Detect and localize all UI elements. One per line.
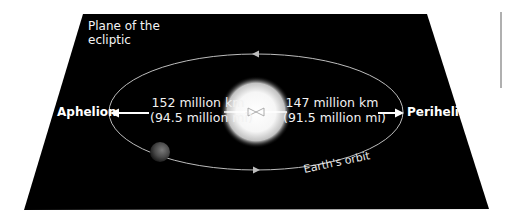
perihelion-label: Perihelion [407,106,476,118]
aphelion-distance-km: 152 million km [150,95,246,110]
perihelion-distance-mi: (91.5 million mi) [283,110,381,125]
aphelion-label: Aphelion [57,106,117,118]
side-divider-line [500,12,502,88]
plane-label-line-2: ecliptic [88,33,160,47]
aphelion-distance-mi: (94.5 million mi) [150,110,246,125]
plane-label-line-1: Plane of the [88,19,160,33]
ecliptic-diagram: Plane of the ecliptic 152 million km (94… [0,0,509,217]
perihelion-distance-km: 147 million km [283,95,381,110]
plane-of-ecliptic-label: Plane of the ecliptic [88,19,160,47]
perihelion-distance: 147 million km (91.5 million mi) [283,95,381,125]
aphelion-distance: 152 million km (94.5 million mi) [150,95,246,125]
earth-icon [150,142,170,162]
